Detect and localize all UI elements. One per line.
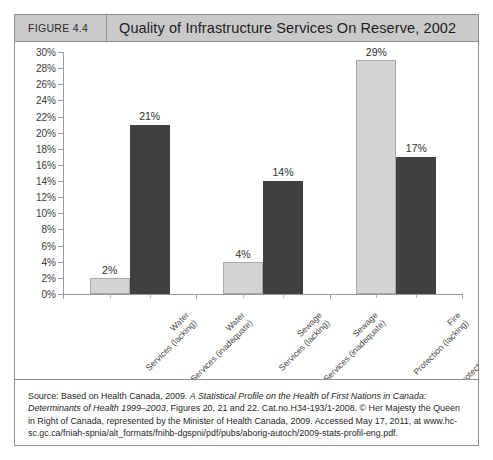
y-axis-tick: 2% xyxy=(63,278,64,279)
x-group-separator-tick xyxy=(196,294,197,299)
y-tick-mark xyxy=(58,84,63,85)
x-group-separator-tick xyxy=(63,294,64,299)
y-axis-tick: 14% xyxy=(63,181,64,182)
y-tick-label: 28% xyxy=(36,63,56,74)
y-tick-label: 4% xyxy=(42,256,56,267)
y-tick-mark xyxy=(58,246,63,247)
bar: 21% xyxy=(130,125,170,294)
y-tick-label: 2% xyxy=(42,272,56,283)
source-divider xyxy=(15,379,478,380)
category-label-line: Services (inadequate) xyxy=(188,317,255,379)
y-tick-label: 8% xyxy=(42,224,56,235)
y-axis-line xyxy=(63,52,64,295)
x-minor-tick xyxy=(376,295,377,298)
x-axis-line xyxy=(63,294,463,295)
x-minor-tick xyxy=(110,295,111,298)
y-axis-tick: 12% xyxy=(63,197,64,198)
y-axis-tick: 22% xyxy=(63,117,64,118)
y-tick-mark xyxy=(58,100,63,101)
bar-value-label: 21% xyxy=(139,110,160,122)
y-tick-label: 6% xyxy=(42,240,56,251)
x-minor-tick xyxy=(416,295,417,298)
x-group-separator-tick xyxy=(462,294,463,299)
bar: 2% xyxy=(90,278,130,294)
y-axis-tick: 28% xyxy=(63,68,64,69)
y-tick-mark xyxy=(58,278,63,279)
y-tick-label: 20% xyxy=(36,127,56,138)
y-tick-label: 30% xyxy=(36,47,56,58)
bar: 17% xyxy=(396,157,436,294)
x-minor-tick xyxy=(150,295,151,298)
y-tick-label: 14% xyxy=(36,176,56,187)
y-tick-mark xyxy=(58,197,63,198)
y-axis-tick: 4% xyxy=(63,262,64,263)
figure-container: FIGURE 4.4 Quality of Infrastructure Ser… xyxy=(14,14,479,446)
y-tick-mark xyxy=(58,165,63,166)
figure-title: Quality of Infrastructure Services On Re… xyxy=(107,20,456,36)
y-tick-mark xyxy=(58,133,63,134)
y-tick-mark xyxy=(58,68,63,69)
bar: 4% xyxy=(223,262,263,294)
figure-number-label: FIGURE 4.4 xyxy=(15,15,107,41)
figure-header: FIGURE 4.4 Quality of Infrastructure Ser… xyxy=(15,15,478,42)
plot-region: 30%28%26%24%22%20%18%16%14%12%10%8%6%4%2… xyxy=(63,52,463,295)
y-axis-tick: 6% xyxy=(63,246,64,247)
y-axis-tick: 30% xyxy=(63,52,64,53)
y-tick-label: 16% xyxy=(36,159,56,170)
y-axis-tick: 8% xyxy=(63,229,64,230)
y-axis-tick: 20% xyxy=(63,133,64,134)
chart-area: 30%28%26%24%22%20%18%16%14%12%10%8%6%4%2… xyxy=(15,42,478,379)
x-minor-tick xyxy=(243,295,244,298)
y-tick-mark xyxy=(58,213,63,214)
bar-value-label: 14% xyxy=(272,166,293,178)
y-axis-tick: 26% xyxy=(63,84,64,85)
y-tick-mark xyxy=(58,181,63,182)
bar-value-label: 2% xyxy=(102,264,117,276)
bar-value-label: 17% xyxy=(406,142,427,154)
y-axis-tick: 18% xyxy=(63,149,64,150)
bar-value-label: 4% xyxy=(235,248,250,260)
y-tick-label: 0% xyxy=(42,289,56,300)
x-group-separator-tick xyxy=(330,294,331,299)
y-tick-mark xyxy=(58,229,63,230)
bar: 29% xyxy=(356,60,396,294)
x-minor-tick xyxy=(283,295,284,298)
y-tick-label: 18% xyxy=(36,143,56,154)
y-tick-mark xyxy=(58,262,63,263)
y-axis-tick: 16% xyxy=(63,165,64,166)
y-tick-label: 22% xyxy=(36,111,56,122)
y-tick-label: 12% xyxy=(36,192,56,203)
y-tick-mark xyxy=(58,149,63,150)
y-tick-label: 10% xyxy=(36,208,56,219)
y-tick-label: 26% xyxy=(36,79,56,90)
y-axis-tick: 10% xyxy=(63,213,64,214)
source-text-lead: Source: Based on Health Canada, 2009. xyxy=(28,391,190,401)
y-tick-label: 24% xyxy=(36,95,56,106)
source-note: Source: Based on Health Canada, 2009. A … xyxy=(28,390,465,439)
bar-value-label: 29% xyxy=(366,46,387,58)
y-tick-mark xyxy=(58,117,63,118)
bar: 14% xyxy=(263,181,303,294)
y-tick-mark xyxy=(58,52,63,53)
y-axis-tick: 24% xyxy=(63,100,64,101)
